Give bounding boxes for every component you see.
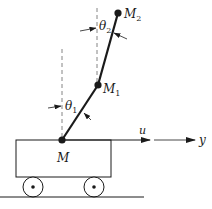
label-force-u: u [139, 124, 146, 137]
wheel-left [23, 177, 43, 197]
label-cart-mass: M [56, 151, 70, 165]
theta1-arrow-right [84, 113, 91, 120]
pendulum-cart-diagram: M2 M1 θ2 θ1 M u y [0, 0, 212, 209]
theta1-arrow-left [48, 106, 61, 108]
wheel-right [84, 177, 104, 197]
label-m1: M1 [102, 82, 120, 98]
mass-m1-dot [94, 81, 101, 88]
mass-m2-dot [114, 9, 121, 16]
label-position-y: y [198, 133, 206, 147]
theta2-arrow-right [114, 33, 127, 39]
label-m2: M2 [123, 7, 141, 23]
label-theta2: θ2 [99, 19, 111, 35]
theta2-arrow-left [80, 28, 96, 31]
label-theta1: θ1 [65, 99, 77, 115]
